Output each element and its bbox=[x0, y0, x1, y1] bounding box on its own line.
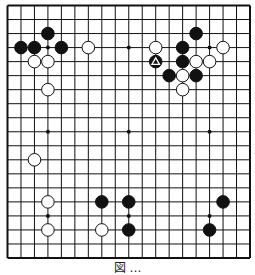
black-stone bbox=[122, 196, 135, 209]
black-stone bbox=[176, 41, 189, 54]
white-stone bbox=[42, 55, 55, 68]
black-stone bbox=[15, 41, 28, 54]
black-stone bbox=[163, 69, 176, 82]
white-stone bbox=[42, 196, 55, 209]
white-stone bbox=[82, 41, 95, 54]
star-point bbox=[46, 46, 50, 50]
star-point bbox=[127, 130, 131, 134]
white-stone bbox=[190, 55, 203, 68]
star-point bbox=[46, 130, 50, 134]
star-point bbox=[208, 46, 212, 50]
black-stone bbox=[42, 27, 55, 40]
black-stone bbox=[55, 41, 68, 54]
white-stone bbox=[42, 224, 55, 237]
diagram-caption: 図 … bbox=[0, 262, 255, 274]
black-stone bbox=[190, 69, 203, 82]
white-stone bbox=[176, 69, 189, 82]
go-board bbox=[0, 0, 255, 262]
black-stone bbox=[96, 196, 109, 209]
star-point bbox=[127, 214, 131, 218]
star-point bbox=[208, 130, 212, 134]
black-stone bbox=[122, 224, 135, 237]
star-point bbox=[46, 214, 50, 218]
black-stone bbox=[176, 55, 189, 68]
star-point bbox=[208, 214, 212, 218]
black-stone bbox=[28, 41, 41, 54]
white-stone bbox=[203, 55, 216, 68]
black-stone bbox=[203, 224, 216, 237]
white-stone bbox=[28, 55, 41, 68]
black-stone bbox=[190, 27, 203, 40]
white-stone bbox=[176, 83, 189, 96]
white-stone bbox=[149, 41, 162, 54]
black-stone bbox=[217, 196, 230, 209]
star-point bbox=[127, 46, 131, 50]
white-stone bbox=[42, 83, 55, 96]
white-stone bbox=[217, 41, 230, 54]
white-stone bbox=[28, 154, 41, 167]
white-stone bbox=[96, 224, 109, 237]
